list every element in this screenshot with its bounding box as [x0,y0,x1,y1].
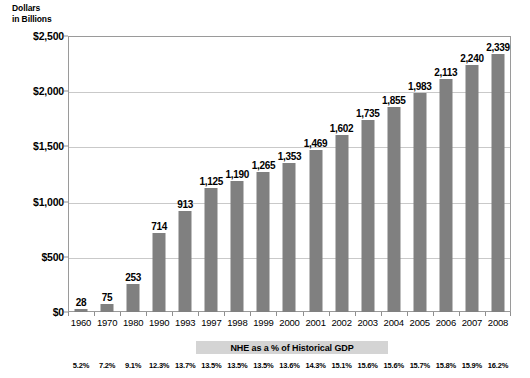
bar[interactable] [205,188,218,312]
x-axis-tick [381,312,382,316]
x-axis-tick [68,312,69,316]
x-axis-tick [433,312,434,316]
bar-group: 1,735 [355,36,381,312]
gdp-percent-value: 13.6% [279,361,299,370]
x-axis-tick [510,312,511,316]
bar-value-label: 714 [151,221,167,232]
bar[interactable] [335,135,348,312]
x-axis-tick-label: 2002 [331,317,351,328]
x-axis-tick [250,312,251,316]
gdp-percent-value: 15.6% [358,361,378,370]
x-axis-tick-label: 2003 [358,317,378,328]
bar-group: 253 [120,36,146,312]
bar[interactable] [153,233,166,312]
x-axis-tick-label: 1990 [149,317,169,328]
bar-group: 2,339 [485,36,511,312]
x-axis: 1960197019801990199319971998199920002001… [68,312,511,334]
gdp-percent-value: 15.9% [462,361,482,370]
bar[interactable] [283,163,296,312]
bar[interactable] [101,304,114,312]
bar[interactable] [127,284,140,312]
bar-group: 714 [146,36,172,312]
x-axis-tick [146,312,147,316]
bar-value-label: 1,265 [252,160,276,171]
bar-value-label: 253 [125,272,141,283]
x-axis-tick [94,312,95,316]
bar-value-label: 2,113 [434,67,457,78]
x-axis-tick-label: 1980 [123,317,143,328]
gdp-values-row: 5.2%7.2%9.1%12.3%13.7%13.5%13.5%13.5%13.… [68,361,511,375]
y-axis-tick-label: $500 [41,251,64,263]
bar-group: 1,353 [276,36,302,312]
x-axis-tick-label: 2006 [436,317,456,328]
bar-group: 28 [68,36,94,312]
y-axis-title-line2: in Billions [12,14,52,25]
bar-value-label: 28 [76,297,87,308]
gdp-percent-value: 15.1% [331,361,351,370]
y-axis: $0$500$1,000$1,500$2,000$2,500 [0,36,64,312]
x-axis-tick [459,312,460,316]
x-axis-tick [276,312,277,316]
bar-value-label: 75 [102,292,113,303]
bar-group: 1,265 [250,36,276,312]
bar-value-label: 1,983 [408,81,432,92]
bar-value-label: 1,602 [330,123,354,134]
x-axis-tick-label: 1993 [175,317,195,328]
x-axis-tick [355,312,356,316]
x-axis-tick-label: 2004 [384,317,404,328]
gdp-percent-value: 15.7% [410,361,430,370]
x-axis-tick-label: 2008 [488,317,508,328]
bar[interactable] [387,107,400,312]
bar-group: 75 [94,36,120,312]
gdp-percent-value: 13.5% [201,361,221,370]
gdp-percent-value: 13.5% [227,361,247,370]
gdp-percent-value: 12.3% [149,361,169,370]
x-axis-tick-label: 2007 [462,317,482,328]
y-axis-tick-label: $1,000 [33,196,64,208]
bar-value-label: 1,190 [226,169,250,180]
bar-value-label: 1,855 [382,95,406,106]
bar-group: 1,190 [224,36,250,312]
y-axis-title: Dollars in Billions [12,3,52,25]
bar-group: 2,240 [459,36,485,312]
x-axis-tick [172,312,173,316]
bar-value-label: 1,735 [356,108,380,119]
bar-value-label: 2,240 [460,53,484,64]
y-axis-tick-label: $0 [53,306,64,318]
bar-value-label: 1,353 [278,151,302,162]
bar[interactable] [491,54,504,312]
x-axis-tick-label: 2005 [410,317,430,328]
gdp-percent-value: 9.1% [125,361,141,370]
x-axis-tick [224,312,225,316]
x-axis-tick [329,312,330,316]
x-axis-tick [303,312,304,316]
bar[interactable] [439,79,452,312]
bar[interactable] [179,211,192,312]
bars-layer: 28752537149131,1251,1901,2651,3531,4691,… [68,36,511,312]
bar-value-label: 913 [177,199,193,210]
y-axis-tick-label: $2,500 [33,30,64,42]
bar-value-label: 1,469 [304,138,328,149]
x-axis-tick [407,312,408,316]
x-axis-tick-label: 2000 [279,317,299,328]
bar[interactable] [413,93,426,312]
x-axis-tick-label: 1998 [227,317,247,328]
y-axis-tick-label: $1,500 [33,140,64,152]
bar-value-label: 1,125 [200,176,224,187]
gdp-percent-value: 13.5% [253,361,273,370]
y-axis-title-line1: Dollars [12,3,52,14]
x-axis-tick [485,312,486,316]
gdp-percent-value: 15.6% [384,361,404,370]
bar[interactable] [361,120,374,312]
bar-value-label: 2,339 [486,42,510,53]
gdp-percent-value: 16.2% [488,361,508,370]
bar[interactable] [231,181,244,312]
bar[interactable] [465,65,478,312]
bar-group: 1,983 [407,36,433,312]
bar[interactable] [257,172,270,312]
x-axis-tick [120,312,121,316]
bar[interactable] [309,150,322,312]
bar-group: 1,125 [198,36,224,312]
x-axis-tick-label: 1970 [97,317,117,328]
bar-group: 1,602 [329,36,355,312]
